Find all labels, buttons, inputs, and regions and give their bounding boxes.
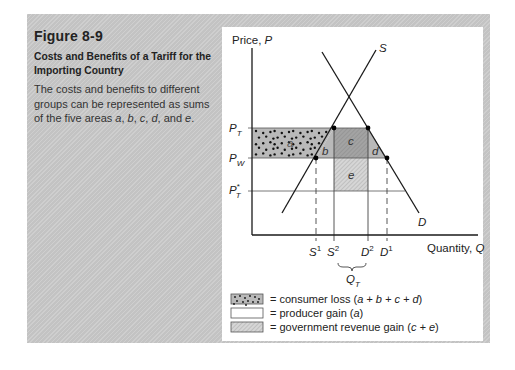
producer-gain-dot <box>299 132 301 134</box>
price-label-p-t-star: P*T <box>229 182 242 200</box>
area-label-b: b <box>322 145 329 157</box>
producer-gain-dot <box>306 154 308 156</box>
producer-gain-dot <box>272 137 274 139</box>
area-label-a: a <box>287 137 293 149</box>
area-label-d: d <box>372 145 379 157</box>
legend-dot <box>252 301 254 303</box>
producer-gain-dot <box>309 148 311 150</box>
producer-gain-dot <box>314 147 316 149</box>
legend-text-hatch: = government revenue gain (c + e) <box>270 321 439 333</box>
producer-gain-dot <box>265 135 267 137</box>
producer-gain-dot <box>273 130 275 132</box>
legend-dot <box>254 296 256 298</box>
producer-gain-dot <box>321 135 323 137</box>
producer-gain-dot <box>284 149 286 151</box>
supply-label: S <box>379 42 387 54</box>
producer-gain-dot <box>269 141 271 143</box>
producer-gain-dot <box>311 153 313 155</box>
area-label-e: e <box>348 169 354 181</box>
legend-dot <box>242 301 244 303</box>
producer-gain-dot <box>262 142 264 144</box>
producer-gain-dot <box>262 152 264 154</box>
quantity-label-s2: S2 <box>327 244 340 258</box>
price-label-p-t: PT <box>229 122 243 138</box>
producer-gain-dot <box>255 143 257 145</box>
producer-gain-dot <box>314 136 316 138</box>
producer-gain-dot <box>262 132 264 134</box>
producer-gain-dot <box>306 141 308 143</box>
producer-gain-dot <box>306 131 308 133</box>
quantity-label-d1: D1 <box>380 244 393 258</box>
producer-gain-dot <box>309 137 311 139</box>
producer-gain-dot <box>284 135 286 137</box>
legend-swatch-dots <box>231 308 263 318</box>
producer-gain-dot <box>265 149 267 151</box>
intersection-point <box>314 156 319 161</box>
producer-gain-dot <box>288 154 290 156</box>
producer-gain-dot <box>318 132 320 134</box>
producer-gain-dot <box>276 147 278 149</box>
intersection-point <box>366 126 371 131</box>
legend-dot <box>247 300 249 302</box>
legend-dot <box>236 300 238 302</box>
producer-gain-dot <box>281 142 283 144</box>
producer-gain-dot <box>258 136 260 138</box>
producer-gain-dot <box>302 135 304 137</box>
producer-gain-dot <box>311 143 313 145</box>
producer-gain-dot <box>295 147 297 149</box>
legend-dot <box>245 304 247 306</box>
legend-dot <box>234 296 236 298</box>
producer-gain-dot <box>318 142 320 144</box>
imports-label: QT <box>346 273 361 289</box>
legend-dot <box>258 298 260 300</box>
area-label-c: c <box>348 135 354 147</box>
producer-gain-dot <box>299 152 301 154</box>
producer-gain-dot <box>273 153 275 155</box>
imports-brace <box>338 263 366 271</box>
producer-gain-dot <box>292 130 294 132</box>
legend-swatch-hatch <box>231 322 263 332</box>
legend-text-solid: = consumer loss (a + b + c + d) <box>270 293 422 305</box>
legend-dot <box>249 295 251 297</box>
legend-dot <box>239 295 241 297</box>
producer-gain-dot <box>269 154 271 156</box>
producer-gain-dot <box>255 153 257 155</box>
legend-dot <box>233 303 235 305</box>
intersection-point <box>332 126 337 131</box>
producer-gain-dot <box>325 131 327 133</box>
producer-gain-dot <box>292 153 294 155</box>
producer-gain-dot <box>276 136 278 138</box>
producer-gain-dot <box>281 152 283 154</box>
producer-gain-dot <box>273 143 275 145</box>
legend-dot <box>257 301 259 303</box>
x-axis-label: Quantity, Q <box>427 242 484 254</box>
producer-gain-dot <box>255 130 257 132</box>
producer-gain-dot <box>299 142 301 144</box>
price-label-p-w: PW <box>229 152 246 168</box>
y-axis-label: Price, P <box>232 34 273 46</box>
legend-text-dots: = producer gain (a) <box>270 307 363 319</box>
producer-gain-dot <box>302 149 304 151</box>
producer-gain-dot <box>281 132 283 134</box>
producer-gain-dot <box>258 147 260 149</box>
legend-dot <box>244 297 246 299</box>
demand-label: D <box>418 216 426 228</box>
producer-gain-dot <box>295 136 297 138</box>
intersection-point <box>385 156 390 161</box>
quantity-label-d2: D2 <box>361 244 374 258</box>
producer-gain-dot <box>269 131 271 133</box>
tariff-diagram: Price, PQuantity, QSDPTPWP*TS1S2D2D1QTab… <box>0 0 515 370</box>
producer-gain-dot <box>288 131 290 133</box>
producer-gain-dot <box>272 148 274 150</box>
producer-gain-dot <box>311 130 313 132</box>
quantity-label-s1: S1 <box>309 244 322 258</box>
